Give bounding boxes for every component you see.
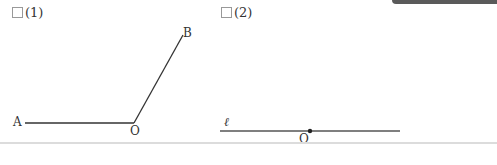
ray-OB	[134, 35, 183, 123]
geometry-figures	[0, 0, 497, 165]
point-O-label: O	[130, 124, 140, 138]
point-A-label: A	[13, 115, 22, 129]
line-l-label: ℓ	[224, 115, 229, 130]
point-B-label: B	[183, 26, 192, 40]
divider	[0, 142, 497, 144]
